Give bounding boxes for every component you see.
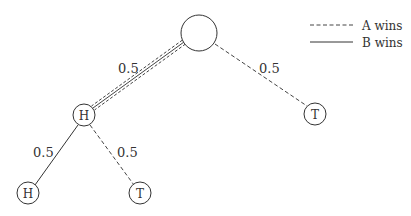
node-h1-label: H	[79, 109, 89, 123]
prob-label-h1-hh: 0.5	[33, 145, 54, 160]
legend-b-label: B wins	[362, 36, 403, 50]
prob-label-root-h1: 0.5	[118, 61, 139, 76]
node-hh-label: H	[23, 187, 33, 201]
node-t1: T	[304, 103, 326, 125]
node-hh: H	[17, 182, 39, 204]
node-ht-label: T	[136, 187, 144, 201]
node-root	[181, 15, 217, 51]
node-h1: H	[73, 104, 95, 126]
node-ht: T	[129, 182, 151, 204]
prob-label-root-t1: 0.5	[259, 61, 280, 76]
prob-label-h1-ht: 0.5	[117, 145, 138, 160]
legend: A wins B wins	[310, 19, 403, 50]
node-t1-label: T	[311, 108, 319, 122]
legend-a-label: A wins	[361, 19, 402, 33]
probability-tree-diagram: 0.5 0.5 0.5 0.5 H T H T A wins B wins	[0, 0, 411, 216]
